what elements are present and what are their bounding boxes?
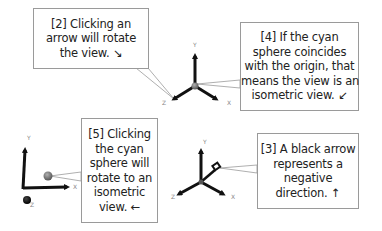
isometric-gizmo[interactable]	[174, 56, 216, 99]
callout-line: isometric	[82, 185, 157, 200]
y-axis-label: Y	[27, 134, 31, 141]
origin-sphere[interactable]	[199, 180, 204, 185]
callout-line: negative	[258, 171, 358, 186]
z-axis-arrow[interactable]	[179, 182, 201, 194]
x-axis-arrow[interactable]	[23, 187, 67, 188]
callout-line: rotate to an	[82, 171, 157, 186]
z-axis-label: Z	[171, 193, 175, 200]
callout-line: arrow will rotate	[34, 31, 148, 46]
negative-direction-arrow[interactable]	[201, 170, 215, 182]
callout-line: view. ←	[82, 200, 157, 215]
callout-line: sphere coincides	[241, 45, 358, 60]
x-axis-label: X	[231, 193, 235, 200]
y-axis-label: Y	[203, 138, 207, 145]
cyan-sphere[interactable]	[44, 172, 53, 181]
origin-sphere[interactable]	[192, 83, 199, 90]
x-axis-arrow[interactable]	[195, 86, 216, 99]
x-axis-label: X	[227, 99, 231, 106]
callout-line: the view. ↘	[34, 46, 148, 61]
y-axis-arrow[interactable]	[23, 150, 25, 189]
callout-2-pointer	[136, 68, 174, 99]
callout-line: [4] If the cyan	[241, 30, 358, 45]
callout-line: direction. ↑	[258, 186, 358, 201]
callout-negative-direction: [3] A black arrow represents a negative …	[257, 133, 359, 209]
callout-click-arrow: [2] Clicking an arrow will rotate the vi…	[33, 8, 149, 69]
callout-line: sphere will	[82, 156, 157, 171]
z-axis-label: Z	[162, 99, 166, 106]
z-axis-label: Z	[30, 201, 34, 208]
callout-line: [3] A black arrow	[258, 142, 358, 157]
callout-click-sphere: [5] Clicking the cyan sphere will rotate…	[81, 118, 158, 223]
callout-line: means the view is an	[241, 74, 358, 89]
callout-line: represents a	[258, 157, 358, 172]
callout-line: [2] Clicking an	[34, 17, 148, 32]
callout-line: the cyan	[82, 142, 157, 157]
x-axis-label: X	[73, 183, 77, 190]
callout-4-pointer	[197, 80, 240, 88]
callout-line: [5] Clicking	[82, 127, 157, 142]
callout-3-pointer	[220, 165, 257, 173]
y-axis-label: Y	[193, 41, 197, 48]
z-axis-arrow[interactable]	[174, 86, 195, 99]
callout-5-pointer	[50, 172, 81, 181]
callout-line: isometric view. ↙	[241, 88, 358, 103]
negative-arrow-gizmo[interactable]	[179, 151, 223, 194]
callout-isometric-view: [4] If the cyan sphere coincides with th…	[240, 22, 359, 111]
negative-arrow-head[interactable]	[212, 163, 220, 171]
x-axis-arrow[interactable]	[201, 182, 223, 194]
callout-line: with the origin, that	[241, 59, 358, 74]
